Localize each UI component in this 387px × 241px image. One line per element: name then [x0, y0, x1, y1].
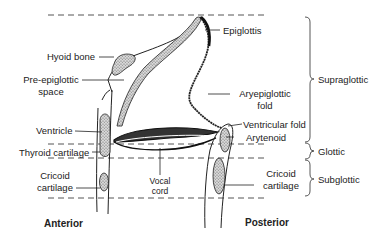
arytenoid-shape: [220, 128, 230, 152]
label-ventricular-fold: Ventricular fold: [243, 119, 306, 130]
label-cricoid-posterior-2: cartilage: [256, 180, 306, 191]
epiglottis-edge: [189, 17, 222, 128]
label-region-subglottic: Subglottic: [318, 174, 360, 185]
label-region-supraglottic: Supraglottic: [318, 74, 368, 85]
thyroid-cartilage-shape: [100, 114, 110, 157]
larynx-diagram: Hyoid bone Pre-epiglottic space Epiglott…: [0, 0, 387, 241]
label-cricoid-posterior-1: Cricoid: [256, 168, 306, 179]
larynx-drawing: [0, 0, 387, 241]
label-cricoid-anterior-2: cartilage: [34, 182, 76, 193]
label-thyroid-cartilage: Thyroid cartilage: [19, 147, 89, 158]
subglottic-bracket: [305, 160, 314, 196]
posterior-cricoid-shape: [213, 158, 225, 194]
label-region-glottic: Glottic: [318, 146, 345, 157]
label-vocal-cord-1: Vocal: [144, 176, 176, 186]
label-cricoid-anterior-1: Cricoid: [34, 170, 76, 181]
label-vocal-cord-2: cord: [144, 186, 176, 196]
label-anterior: Anterior: [44, 218, 83, 229]
region-brackets: [305, 17, 314, 196]
label-hyoid-bone: Hyoid bone: [47, 51, 95, 62]
anterior-cricoid-shape: [100, 173, 109, 191]
hyoid-bone-shape: [112, 54, 135, 75]
label-ventricle: Ventricle: [36, 125, 72, 136]
label-arytenoid: Arytenoid: [246, 132, 286, 143]
label-aryepiglottic-2: fold: [230, 100, 300, 111]
label-posterior: Posterior: [245, 217, 289, 228]
label-aryepiglottic-1: Aryepiglottic: [230, 88, 300, 99]
label-epiglottis: Epiglottis: [223, 25, 262, 36]
label-pre-epiglottic-2: space: [20, 86, 82, 97]
glottic-bracket: [305, 143, 314, 159]
label-pre-epiglottic-1: Pre-epiglottic: [20, 74, 82, 85]
epiglottis-shape: [117, 17, 201, 126]
supraglottic-bracket: [305, 17, 314, 142]
